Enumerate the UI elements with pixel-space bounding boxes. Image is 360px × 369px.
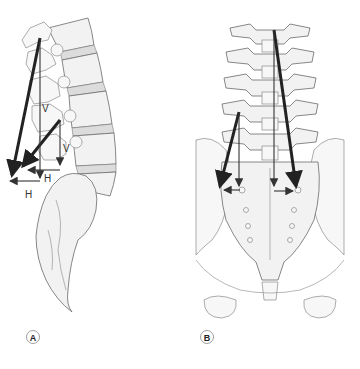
svg-text:B: B (204, 333, 211, 343)
label-v-upper: V (42, 103, 49, 114)
label-h-lower: H (44, 173, 51, 184)
panel-b-posterior-spine: B (196, 24, 344, 344)
lumbar-vertebrae (222, 24, 318, 160)
left-obturator (204, 296, 236, 318)
panel-label-a: A (27, 331, 40, 344)
panel-a-lateral-spine: V V H H A (10, 18, 116, 344)
sacrum (36, 173, 97, 312)
label-h-upper: H (25, 189, 32, 200)
right-obturator (304, 296, 336, 318)
label-v-lower: V (63, 143, 70, 154)
svg-text:A: A (30, 333, 37, 343)
spine-force-diagram: V V H H A (0, 0, 360, 369)
coccyx (262, 282, 278, 300)
panel-label-b: B (201, 331, 214, 344)
